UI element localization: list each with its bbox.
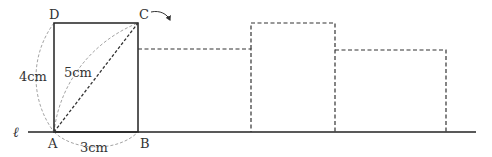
line-label-l: ℓ [13,124,19,140]
measurement-AC: 5cm [64,65,92,80]
rectangle-position-4 [335,50,446,132]
vertex-label-A: A [47,136,58,151]
measurement-AD: 4cm [19,69,47,84]
rotation-arrow-icon [151,11,170,20]
vertex-label-C: C [139,7,149,22]
diagram-canvas: ℓ D C A B 4cm 5cm 3cm [0,0,492,157]
vertex-label-D: D [49,7,59,22]
rectangle-position-3 [251,23,335,132]
vertex-label-B: B [140,136,150,151]
measurement-AB: 3cm [80,140,108,155]
rolling-rectangle-diagram: ℓ D C A B 4cm 5cm 3cm [0,0,492,157]
rectangle-position-2 [138,49,251,132]
